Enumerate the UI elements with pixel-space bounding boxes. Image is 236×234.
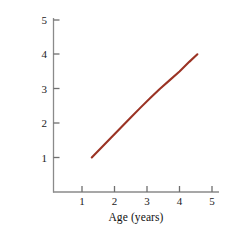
x-tick-label-5: 5 (205, 196, 219, 207)
x-tick-label-1: 1 (75, 196, 89, 207)
memory-span-line-chart: 5 4 3 2 1 1 2 3 4 5 Memory Span Age (yea… (0, 0, 236, 234)
y-tick-label-5: 5 (33, 15, 47, 26)
data-line-memory-span (92, 54, 198, 157)
x-tick-label-4: 4 (173, 196, 187, 207)
x-axis-label: Age (years) (53, 211, 219, 223)
x-tick-label-3: 3 (140, 196, 154, 207)
x-tick-label-2: 2 (108, 196, 122, 207)
y-tick-label-4: 4 (33, 49, 47, 60)
y-tick-label-3: 3 (33, 84, 47, 95)
y-tick-label-2: 2 (33, 118, 47, 129)
y-tick-label-1: 1 (33, 153, 47, 164)
